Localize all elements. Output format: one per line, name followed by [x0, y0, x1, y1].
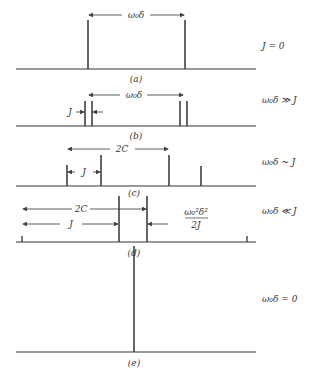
condition-e: ω₀δ = 0: [262, 294, 298, 304]
label-d-j: J: [67, 219, 74, 229]
label-b-omega-delta: ω₀δ: [126, 90, 142, 100]
condition-d: ω₀δ ≪ J: [262, 206, 298, 216]
label-c-2c: 2C: [115, 144, 129, 154]
label-a-omega-delta: ω₀δ: [128, 10, 144, 20]
condition-b: ω₀δ ≫ J: [262, 95, 298, 105]
nmr-spectra-diagram: ω₀δ (a) J = 0 ω₀δ J (b) ω₀δ ≫ J 2C J (c)…: [0, 0, 320, 378]
caption-e: (e): [128, 358, 141, 368]
spectrum-a: [16, 15, 256, 69]
spectrum-d: [16, 196, 256, 242]
label-c-j: J: [80, 167, 87, 177]
spectrum-c: [16, 149, 256, 186]
condition-c: ω₀δ ~ J: [262, 157, 297, 167]
label-d-frac-num: ω₀²δ²: [184, 207, 208, 217]
caption-d: (d): [128, 248, 141, 258]
caption-b: (b): [130, 131, 143, 141]
label-b-j: J: [66, 107, 73, 117]
caption-c: (c): [128, 188, 141, 198]
spectrum-e: [16, 246, 256, 352]
condition-a: J = 0: [260, 41, 285, 51]
caption-a: (a): [130, 74, 143, 84]
label-d-frac-den: 2J: [190, 220, 202, 230]
label-d-2c: 2C: [74, 204, 88, 214]
